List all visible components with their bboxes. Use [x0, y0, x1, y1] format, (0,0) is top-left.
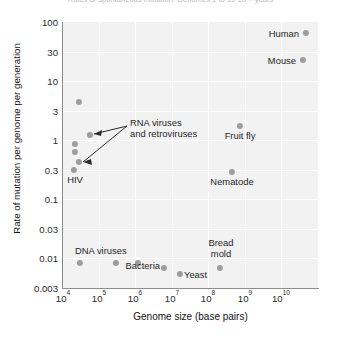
- gridline-vertical: [135, 22, 136, 288]
- bread-mold-line2: mold: [211, 248, 231, 259]
- x-axis-ticks: 104 105 106 107 108 109 1010: [63, 292, 318, 308]
- x-axis-line: [62, 288, 319, 289]
- point-label-bacteria: Bacteria: [126, 261, 160, 272]
- x-tick-label: 108: [201, 292, 215, 304]
- x-tick-base: 10: [128, 293, 139, 304]
- annotation-dna-viruses: DNA viruses: [75, 245, 127, 256]
- data-point-bread-mold: [217, 265, 223, 271]
- point-label-fruit-fly: Fruit fly: [225, 131, 256, 142]
- data-point-mouse: [300, 57, 306, 63]
- point-label-hiv: HIV: [67, 175, 83, 186]
- point-label-nematode: Nematode: [210, 177, 253, 188]
- x-tick-base: 10: [56, 293, 67, 304]
- data-point-nematode: [229, 169, 235, 175]
- data-point-rna-virus: [76, 159, 82, 165]
- gridline-vertical: [245, 22, 246, 288]
- data-point-bacteria: [161, 265, 167, 271]
- x-tick-exponent: 7: [176, 289, 180, 296]
- data-point-rna-virus: [72, 149, 78, 155]
- data-point-dna-virus: [113, 260, 119, 266]
- data-point-human: [303, 30, 309, 36]
- gridline-horizontal: [63, 52, 318, 53]
- x-tick-label: 106: [128, 292, 142, 304]
- x-tick-exponent: 9: [249, 289, 253, 296]
- x-axis-label: Genome size (base pairs): [63, 311, 318, 322]
- point-label-bread-mold: Breadmold: [208, 238, 233, 259]
- x-tick-label: 104: [56, 292, 70, 304]
- gridline-horizontal: [63, 199, 318, 200]
- x-tick-label: 1010: [272, 292, 290, 304]
- x-tick-base: 10: [238, 293, 249, 304]
- x-tick-base: 10: [92, 293, 103, 304]
- x-tick-exponent: 10: [283, 289, 290, 296]
- y-axis-label: Rate of mutation per genome per generati…: [11, 19, 22, 259]
- annotation-rna-line2: and retroviruses: [130, 128, 197, 139]
- data-point-hiv: [71, 167, 77, 173]
- data-point-rna-virus: [76, 99, 82, 105]
- data-point-rna-virus: [87, 132, 93, 138]
- data-point-dna-virus: [77, 260, 83, 266]
- mutation-rate-scatter-figure: Rates of spontaneous mutation: Genomes 1…: [0, 0, 341, 338]
- annotation-rna-viruses: RNA viruses and retroviruses: [130, 117, 197, 140]
- y-axis-line: [62, 22, 63, 289]
- gridline-horizontal: [63, 81, 318, 82]
- bread-mold-line1: Bread: [208, 237, 233, 248]
- gridline-horizontal: [63, 111, 318, 112]
- figure-title: Rates of spontaneous mutation: Genomes 1…: [0, 0, 341, 5]
- point-label-human: Human: [269, 29, 299, 40]
- gridline-horizontal: [63, 170, 318, 171]
- x-tick-exponent: 6: [139, 289, 143, 296]
- x-tick-label: 109: [238, 292, 252, 304]
- x-tick-base: 10: [165, 293, 176, 304]
- x-tick-base: 10: [272, 293, 283, 304]
- x-tick-base: 10: [201, 293, 212, 304]
- x-tick-label: 105: [92, 292, 106, 304]
- data-point-fruit-fly: [237, 123, 243, 129]
- x-tick-exponent: 8: [212, 289, 216, 296]
- data-point-yeast: [177, 271, 183, 277]
- x-tick-label: 107: [165, 292, 179, 304]
- gridline-horizontal: [63, 258, 318, 259]
- point-label-yeast: Yeast: [184, 270, 207, 281]
- gridline-horizontal: [63, 229, 318, 230]
- y-tick-label: 0.003: [14, 282, 58, 293]
- x-tick-exponent: 5: [103, 289, 107, 296]
- x-tick-exponent: 4: [67, 289, 71, 296]
- data-point-rna-virus: [72, 141, 78, 147]
- gridline-vertical: [172, 22, 173, 288]
- gridline-horizontal: [63, 140, 318, 141]
- annotation-rna-line1: RNA viruses: [130, 117, 197, 128]
- point-label-mouse: Mouse: [268, 56, 296, 67]
